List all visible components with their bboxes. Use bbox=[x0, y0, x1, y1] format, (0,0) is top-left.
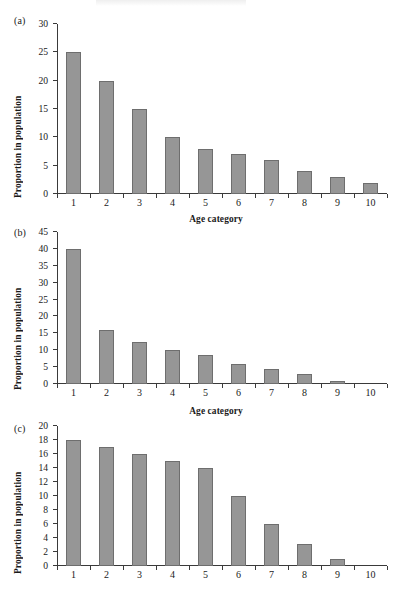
x-tick bbox=[57, 566, 58, 570]
panel-label-a: (a) bbox=[14, 16, 25, 26]
bar bbox=[297, 171, 312, 194]
bar bbox=[198, 468, 213, 566]
x-tick-label: 5 bbox=[203, 388, 208, 398]
y-tick-label: 0 bbox=[43, 561, 48, 571]
x-tick-label: 7 bbox=[269, 198, 274, 208]
x-tick-label: 8 bbox=[302, 570, 307, 580]
y-tick-label: 16 bbox=[38, 449, 48, 459]
x-tick-label: 2 bbox=[104, 198, 109, 208]
bar bbox=[264, 369, 279, 384]
y-tick-label: 10 bbox=[38, 133, 48, 143]
y-tick: 10 bbox=[53, 136, 57, 137]
y-tick-label: 15 bbox=[38, 329, 48, 339]
y-tick-label: 20 bbox=[38, 312, 48, 322]
x-tick bbox=[288, 384, 289, 388]
bar bbox=[198, 355, 213, 384]
bar bbox=[330, 177, 345, 194]
x-tick bbox=[123, 566, 124, 570]
bar bbox=[231, 154, 246, 194]
x-tick bbox=[156, 566, 157, 570]
x-tick-label: 6 bbox=[236, 388, 241, 398]
bar bbox=[330, 559, 345, 566]
y-tick-label: 5 bbox=[43, 362, 48, 372]
bar bbox=[132, 342, 147, 384]
plot-area-c: 0246810121416182012345678910 bbox=[57, 426, 387, 566]
bar bbox=[99, 330, 114, 384]
x-tick-label: 2 bbox=[104, 388, 109, 398]
x-tick-label: 9 bbox=[335, 388, 340, 398]
y-axis-line-c bbox=[57, 426, 58, 566]
x-axis-title-a: Age category bbox=[16, 214, 400, 224]
y-tick-label: 6 bbox=[43, 519, 48, 529]
y-tick: 20 bbox=[53, 315, 57, 316]
y-axis-title-c: Proportion in population bbox=[13, 442, 23, 574]
x-tick-label: 10 bbox=[366, 198, 376, 208]
x-tick bbox=[156, 384, 157, 388]
y-tick: 10 bbox=[53, 349, 57, 350]
x-tick bbox=[90, 566, 91, 570]
x-tick-label: 6 bbox=[236, 570, 241, 580]
y-tick: 16 bbox=[53, 453, 57, 454]
bar bbox=[264, 160, 279, 194]
x-tick bbox=[156, 194, 157, 198]
bar bbox=[264, 524, 279, 566]
x-tick-label: 9 bbox=[335, 570, 340, 580]
bar bbox=[99, 447, 114, 566]
y-tick: 10 bbox=[53, 495, 57, 496]
x-tick bbox=[90, 384, 91, 388]
x-tick bbox=[189, 384, 190, 388]
x-tick bbox=[189, 566, 190, 570]
panel-label-c: (c) bbox=[14, 424, 25, 434]
y-tick: 5 bbox=[53, 366, 57, 367]
x-tick bbox=[387, 566, 388, 570]
y-tick: 30 bbox=[53, 23, 57, 24]
y-tick-label: 20 bbox=[38, 421, 48, 431]
x-tick-label: 9 bbox=[335, 198, 340, 208]
bar bbox=[297, 374, 312, 384]
x-tick-label: 3 bbox=[137, 570, 142, 580]
y-tick-label: 4 bbox=[43, 533, 48, 543]
y-tick-label: 0 bbox=[43, 189, 48, 199]
y-tick-label: 35 bbox=[38, 261, 48, 271]
y-tick-label: 30 bbox=[38, 19, 48, 29]
x-tick bbox=[222, 194, 223, 198]
y-tick-label: 20 bbox=[38, 76, 48, 86]
x-tick bbox=[222, 384, 223, 388]
y-tick-label: 2 bbox=[43, 547, 48, 557]
y-tick-label: 18 bbox=[38, 435, 48, 445]
bar bbox=[297, 544, 312, 566]
y-tick: 30 bbox=[53, 282, 57, 283]
x-tick bbox=[321, 194, 322, 198]
x-tick bbox=[123, 194, 124, 198]
y-tick-label: 14 bbox=[38, 463, 48, 473]
x-tick-label: 2 bbox=[104, 570, 109, 580]
x-tick bbox=[321, 566, 322, 570]
y-tick: 2 bbox=[53, 551, 57, 552]
y-tick-label: 10 bbox=[38, 491, 48, 501]
y-tick-label: 8 bbox=[43, 505, 48, 515]
x-tick bbox=[189, 194, 190, 198]
y-tick-label: 30 bbox=[38, 278, 48, 288]
y-tick: 6 bbox=[53, 523, 57, 524]
bar bbox=[132, 454, 147, 566]
y-tick: 15 bbox=[53, 108, 57, 109]
y-tick: 4 bbox=[53, 537, 57, 538]
x-tick-label: 4 bbox=[170, 198, 175, 208]
x-tick bbox=[321, 384, 322, 388]
plot-area-b: 05101520253035404512345678910 bbox=[57, 232, 387, 384]
x-tick-label: 1 bbox=[71, 198, 76, 208]
y-tick: 5 bbox=[53, 165, 57, 166]
x-tick bbox=[354, 384, 355, 388]
y-tick: 14 bbox=[53, 467, 57, 468]
plot-area-a: 05101520253012345678910 bbox=[57, 24, 387, 194]
x-tick bbox=[57, 194, 58, 198]
x-tick-label: 7 bbox=[269, 388, 274, 398]
bar bbox=[66, 52, 81, 194]
y-tick: 18 bbox=[53, 439, 57, 440]
y-tick-label: 25 bbox=[38, 295, 48, 305]
bar bbox=[165, 461, 180, 566]
chart-panel-c: (c) Proportion in population 02468101214… bbox=[0, 422, 400, 594]
x-tick bbox=[288, 566, 289, 570]
x-tick-label: 1 bbox=[71, 570, 76, 580]
x-tick-label: 10 bbox=[366, 570, 376, 580]
